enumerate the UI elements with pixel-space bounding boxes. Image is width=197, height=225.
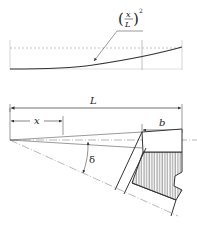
label-L: L [89,95,97,106]
cone-lower-line [10,140,142,148]
bevel-gear-diagram: ( x L ) 2 L x b δ [0,0,197,225]
label-b: b [159,117,165,128]
curve-leader-line [94,31,143,61]
angle-delta: δ [83,142,95,173]
dimension-L: L [10,95,182,133]
curve-formula-label: ( x L ) 2 [118,7,143,29]
formula-exponent: 2 [139,7,143,14]
bevel-gear-section [115,129,182,216]
formula-paren-left: ( [118,10,124,28]
cone-upper-line [10,132,142,140]
formula-numerator: x [126,10,131,19]
dimension-x: x [10,108,63,140]
label-delta: δ [89,154,95,165]
label-x: x [34,115,40,126]
formula-denominator: L [124,20,130,29]
load-distribution-graph [10,31,182,70]
formula-paren-right: ) [133,10,139,28]
gear-tooth [142,129,182,152]
